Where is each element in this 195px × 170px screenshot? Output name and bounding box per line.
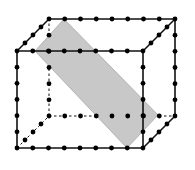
- lattice-dot: [149, 138, 154, 143]
- lattice-dot: [31, 130, 36, 135]
- lattice-dot: [157, 33, 162, 38]
- lattice-dot: [165, 25, 170, 30]
- lattice-dot: [157, 130, 162, 135]
- lattice-dot: [173, 49, 178, 54]
- lattice-dot: [94, 114, 99, 119]
- lattice-dot: [165, 122, 170, 127]
- lattice-dot: [141, 97, 146, 102]
- lattice-dot: [141, 113, 146, 118]
- lattice-dot: [157, 114, 162, 119]
- lattice-dot: [47, 33, 52, 38]
- lattice-dot: [15, 129, 20, 134]
- lattice-dot: [47, 81, 52, 86]
- lattice-dot: [109, 146, 114, 151]
- lattice-dot: [15, 146, 20, 151]
- lattice-dot: [173, 114, 178, 119]
- lattice-dot: [173, 33, 178, 38]
- lattice-dot: [141, 81, 146, 86]
- lattice-dot: [110, 114, 115, 119]
- lattice-dot: [141, 146, 146, 151]
- lattice-dot: [78, 17, 83, 22]
- lattice-dot: [47, 97, 52, 102]
- lattice-dot: [93, 49, 98, 54]
- lattice-dot: [15, 97, 20, 102]
- lattice-dot: [125, 146, 130, 151]
- lattice-dot: [173, 65, 178, 70]
- lattice-dot: [30, 49, 35, 54]
- lattice-dot: [78, 146, 83, 151]
- lattice-dot: [30, 146, 35, 151]
- lattice-dot: [46, 49, 51, 54]
- cross-section-plane: [35, 19, 158, 148]
- lattice-dot: [23, 138, 28, 143]
- lattice-dot: [141, 129, 146, 134]
- lattice-dot: [62, 146, 67, 151]
- lattice-dot: [173, 97, 178, 102]
- lattice-dot: [62, 114, 67, 119]
- lattice-dot: [39, 122, 44, 127]
- lattice-dot: [141, 49, 146, 54]
- lattice-dot: [141, 17, 146, 22]
- lattice-dot: [125, 49, 130, 54]
- lattice-dot: [62, 49, 67, 54]
- lattice-dot: [15, 81, 20, 86]
- cuboid-diagram: [0, 0, 195, 170]
- lattice-dot: [78, 114, 83, 119]
- lattice-dot: [31, 33, 36, 38]
- lattice-dot: [23, 41, 28, 46]
- lattice-dot: [110, 17, 115, 22]
- lattice-dot: [47, 17, 52, 22]
- lattice-dot: [93, 146, 98, 151]
- lattice-dot: [46, 146, 51, 151]
- lattice-dot: [47, 65, 52, 70]
- lattice-dot: [149, 41, 154, 46]
- lattice-dot: [173, 17, 178, 22]
- lattice-dot: [109, 49, 114, 54]
- lattice-dot: [141, 65, 146, 70]
- lattice-dot: [173, 81, 178, 86]
- lattice-dot: [125, 17, 130, 22]
- lattice-dot: [78, 49, 83, 54]
- lattice-dot: [15, 113, 20, 118]
- lattice-dot: [157, 17, 162, 22]
- lattice-dot: [94, 17, 99, 22]
- lattice-dot: [15, 65, 20, 70]
- lattice-dot: [39, 25, 44, 30]
- lattice-dot: [125, 114, 130, 119]
- lattice-dot: [47, 114, 52, 119]
- lattice-dot: [62, 17, 67, 22]
- lattice-dot: [15, 49, 20, 54]
